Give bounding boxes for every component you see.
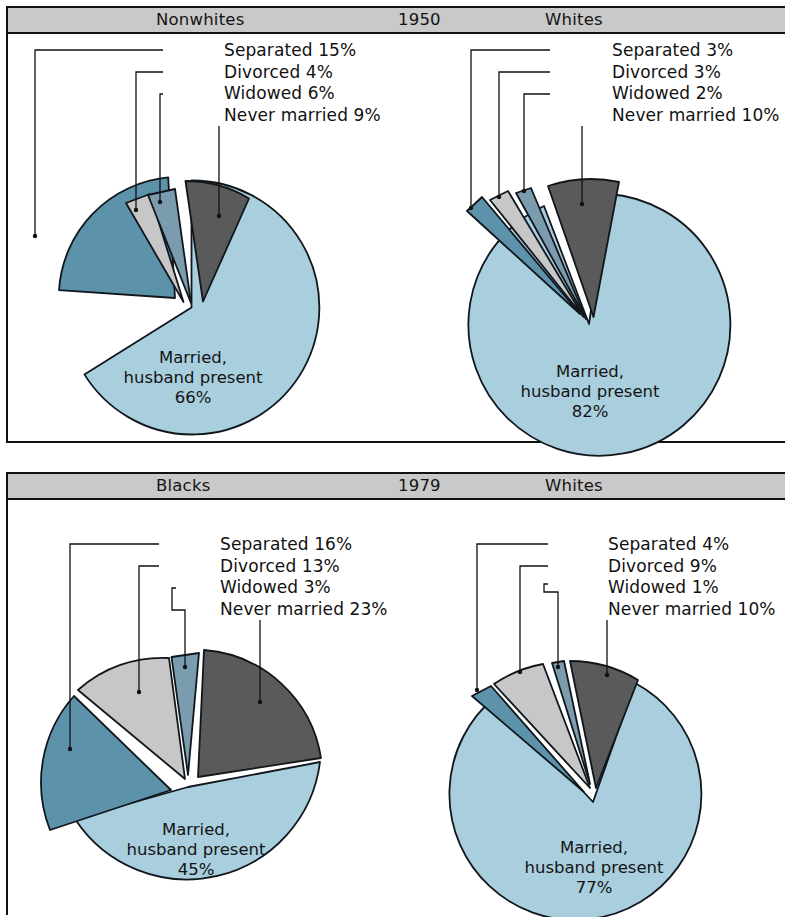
chart-nonwhites-1950: Separated 15% Divorced 4% Widowed 6% Nev…	[8, 34, 400, 441]
panel-1950: Nonwhites 1950 Whites Separated 15% Divo…	[6, 6, 785, 443]
chart-whites-1950: Separated 3% Divorced 3% Widowed 2% Neve…	[400, 34, 785, 441]
center-label-line3: 45%	[126, 860, 266, 880]
center-label-whites-1979: Married, husband present 77%	[524, 838, 664, 898]
panel-1979-body: Separated 16% Divorced 13% Widowed 3% Ne…	[8, 500, 785, 915]
panel-1979-left-group-label: Blacks	[156, 476, 210, 495]
panel-1950-left-group-label: Nonwhites	[156, 10, 244, 29]
chart-blacks-1979: Separated 16% Divorced 13% Widowed 3% Ne…	[8, 500, 400, 915]
center-label-whites-1950: Married, husband present 82%	[520, 362, 660, 422]
panel-1950-header: Nonwhites 1950 Whites	[8, 8, 785, 34]
center-label-line1: Married,	[524, 838, 664, 858]
center-label-nonwhites-1950: Married, husband present 66%	[123, 348, 263, 408]
chart-whites-1979: Separated 4% Divorced 9% Widowed 1% Neve…	[400, 500, 785, 915]
panel-1950-right-group-label: Whites	[545, 10, 603, 29]
center-label-line3: 82%	[520, 402, 660, 422]
center-label-line1: Married,	[520, 362, 660, 382]
center-label-line3: 66%	[123, 388, 263, 408]
center-label-line2: husband present	[520, 382, 660, 402]
panel-1979-right-group-label: Whites	[545, 476, 603, 495]
center-label-blacks-1979: Married, husband present 45%	[126, 820, 266, 880]
panel-1979-header: Blacks 1979 Whites	[8, 474, 785, 500]
center-label-line1: Married,	[126, 820, 266, 840]
panel-1979-year-label: 1979	[398, 476, 441, 495]
center-label-line2: husband present	[126, 840, 266, 860]
center-label-line3: 77%	[524, 878, 664, 898]
center-label-line1: Married,	[123, 348, 263, 368]
panel-1979: Blacks 1979 Whites Separated 16% Divorce…	[6, 472, 785, 915]
center-label-line2: husband present	[524, 858, 664, 878]
panel-1950-year-label: 1950	[398, 10, 441, 29]
center-label-line2: husband present	[123, 368, 263, 388]
panel-1950-body: Separated 15% Divorced 4% Widowed 6% Nev…	[8, 34, 785, 441]
